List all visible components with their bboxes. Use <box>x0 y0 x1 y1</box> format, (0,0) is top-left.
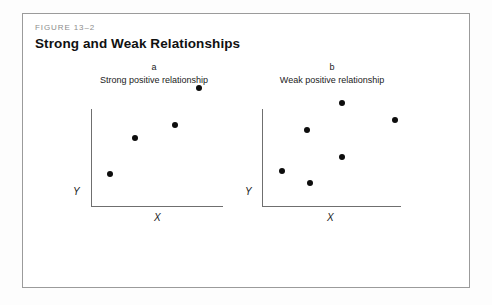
scatter-point <box>307 180 313 186</box>
figure-number-label: FIGURE 13–2 <box>35 23 95 32</box>
scatter-point <box>132 135 138 141</box>
scatter-point <box>339 154 345 160</box>
scatter-point <box>304 127 310 133</box>
figure-frame: FIGURE 13–2 Strong and Weak Relationship… <box>22 13 470 288</box>
scatter-point <box>392 117 398 123</box>
panel-caption-a: Strong positive relationship <box>59 75 249 85</box>
y-axis-label-a: Y <box>73 186 80 197</box>
figure-title: Strong and Weak Relationships <box>35 36 240 51</box>
panel-letter-a: a <box>59 62 249 72</box>
figure-screenshot: FIGURE 13–2 Strong and Weak Relationship… <box>0 0 492 305</box>
y-axis-label-b: Y <box>245 186 252 197</box>
scatter-plot-a <box>91 109 223 207</box>
scatter-plot-b <box>262 109 401 207</box>
scatter-point <box>196 85 202 91</box>
panel-caption-b: Weak positive relationship <box>237 75 427 85</box>
chart-panel-a: a Strong positive relationship Y X <box>59 62 249 277</box>
scatter-point <box>339 100 345 106</box>
scatter-point <box>172 122 178 128</box>
scatter-point <box>279 168 285 174</box>
chart-panel-b: b Weak positive relationship Y X <box>237 62 427 277</box>
x-axis-label-b: X <box>327 212 334 223</box>
x-axis-label-a: X <box>154 212 161 223</box>
panel-letter-b: b <box>237 62 427 72</box>
scatter-point <box>107 171 113 177</box>
